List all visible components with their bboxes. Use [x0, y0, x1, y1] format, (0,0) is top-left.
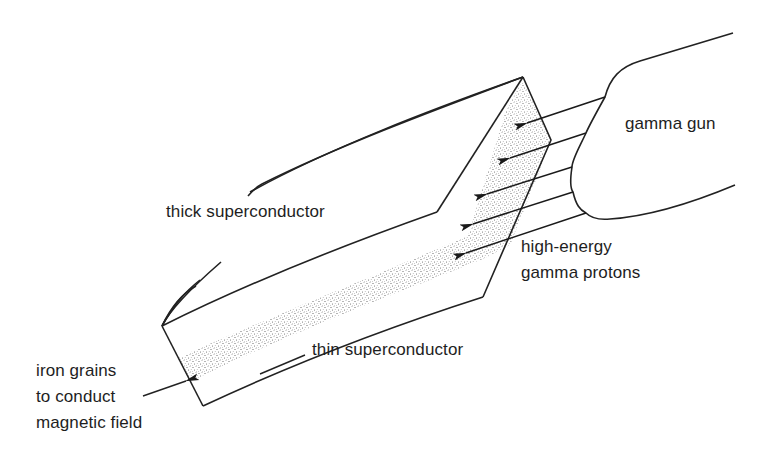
- thin-superconductor-layer: [178, 80, 551, 382]
- high-energy-label-line2: gamma protons: [521, 262, 640, 284]
- diagram-canvas: gamma gun thick superconductor thin supe…: [0, 0, 762, 458]
- iron-grains-label-line1: iron grains: [36, 360, 116, 382]
- thin-superconductor-label: thin superconductor: [312, 339, 463, 361]
- iron-grains-label-line3: magnetic field: [36, 412, 142, 434]
- thick-superconductor-label: thick superconductor: [166, 201, 325, 223]
- iron-grains-label-line2: to conduct: [36, 386, 115, 408]
- gamma-gun-label: gamma gun: [625, 113, 716, 135]
- iron-leader-arrow: [143, 381, 186, 396]
- high-energy-label-line1: high-energy: [521, 236, 612, 258]
